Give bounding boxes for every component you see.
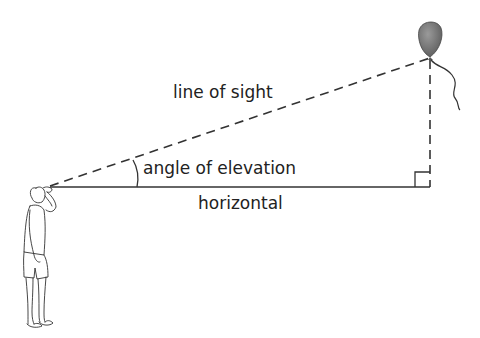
angle-of-elevation-label: angle of elevation — [143, 158, 296, 178]
horizontal-label: horizontal — [198, 193, 283, 213]
balloon-string — [431, 60, 460, 110]
angle-arc — [133, 160, 138, 187]
line-of-sight-label: line of sight — [173, 82, 273, 102]
right-angle-marker — [415, 172, 430, 187]
person-figure — [24, 187, 56, 327]
balloon-icon — [419, 22, 460, 110]
